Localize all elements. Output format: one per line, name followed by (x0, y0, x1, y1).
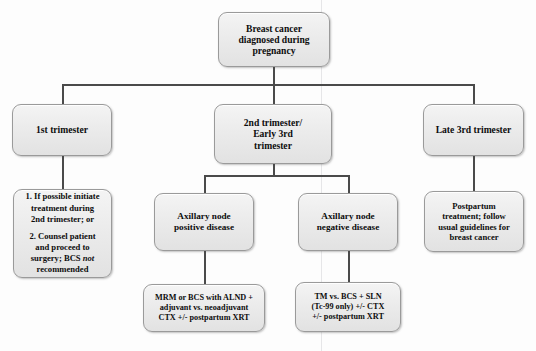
connector-node-negative-to-treatment (348, 251, 350, 282)
node-postpartum-treatment-label: Postpartum treatment; follow usual guide… (430, 201, 518, 242)
connector-drop-second-trimester (273, 84, 275, 104)
first-trimester-option-1: 1. If possible initiate treatment during… (19, 191, 106, 225)
option-2-italic: not (83, 253, 94, 263)
node-node-negative-treatment[interactable]: TM vs. BCS + SLN (Tc-99 only) +/- CTX +/… (295, 282, 401, 332)
connector-drop-first-trimester (62, 84, 64, 104)
node-second-early-third-trimester-label: 2nd trimester/ Early 3rd trimester (220, 117, 326, 151)
first-trimester-option-2: 2. Counsel patient and proceed to surger… (19, 231, 106, 276)
node-second-early-third-trimester[interactable]: 2nd trimester/ Early 3rd trimester (214, 104, 332, 164)
node-late-third-trimester[interactable]: Late 3rd trimester (423, 104, 524, 156)
connector-level2-bus (204, 175, 350, 177)
connector-first-trimester-to-options (62, 156, 64, 189)
connector-drop-node-negative (348, 175, 350, 193)
option-2-suffix: recommended (37, 264, 89, 274)
connector-node-positive-to-treatment (204, 251, 206, 284)
flowchart-canvas: Breast cancer diagnosed during pregnancy… (0, 0, 536, 351)
node-root[interactable]: Breast cancer diagnosed during pregnancy (218, 12, 330, 67)
node-axillary-node-negative[interactable]: Axillary node negative disease (298, 193, 398, 251)
node-axillary-node-positive-label: Axillary node positive disease (160, 211, 248, 233)
node-axillary-node-negative-label: Axillary node negative disease (304, 211, 392, 233)
connector-second-trimester-stem (273, 164, 275, 175)
node-first-trimester[interactable]: 1st trimester (12, 104, 112, 156)
connector-drop-late-third-trimester (473, 84, 475, 104)
node-axillary-node-positive[interactable]: Axillary node positive disease (154, 193, 254, 251)
node-node-positive-treatment[interactable]: MRM or BCS with ALND + adjuvant vs. neoa… (143, 284, 265, 332)
node-first-trimester-label: 1st trimester (18, 124, 106, 135)
node-first-trimester-options[interactable]: 1. If possible initiate treatment during… (13, 189, 112, 278)
connector-root-stem (273, 67, 275, 84)
connector-drop-node-positive (204, 175, 206, 193)
node-root-label: Breast cancer diagnosed during pregnancy (224, 23, 324, 57)
node-late-third-trimester-label: Late 3rd trimester (429, 124, 518, 135)
connector-late-third-to-postpartum (473, 156, 475, 191)
node-postpartum-treatment[interactable]: Postpartum treatment; follow usual guide… (424, 191, 524, 252)
node-node-positive-treatment-label: MRM or BCS with ALND + adjuvant vs. neoa… (149, 293, 259, 322)
node-node-negative-treatment-label: TM vs. BCS + SLN (Tc-99 only) +/- CTX +/… (301, 292, 395, 321)
connector-level1-bus (62, 84, 474, 86)
